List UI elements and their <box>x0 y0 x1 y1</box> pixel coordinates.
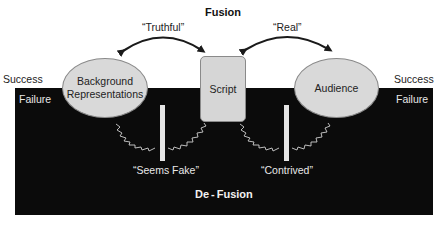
seems-fake-label: “Seems Fake” <box>133 165 199 176</box>
zigzag-right-a-icon <box>240 124 279 151</box>
background-line2: Representations <box>67 88 143 101</box>
zigzag-left-a-icon <box>116 124 155 151</box>
script-node: Script <box>200 56 246 122</box>
background-representations-node: Background Representations <box>62 58 148 118</box>
script-label: Script <box>210 83 237 95</box>
background-line1: Background <box>67 75 143 88</box>
contrived-label: “Contrived” <box>261 165 313 176</box>
truthful-arrow-icon <box>123 38 203 52</box>
real-arrow-icon <box>245 37 330 50</box>
truthful-label: “Truthful” <box>142 22 184 33</box>
left-barrier <box>160 105 165 161</box>
zigzag-right-b-icon <box>292 123 330 150</box>
real-label: “Real” <box>273 22 302 33</box>
audience-node: Audience <box>294 58 379 118</box>
audience-label: Audience <box>315 82 359 95</box>
zigzag-left-b-icon <box>168 123 206 150</box>
right-barrier <box>284 105 289 161</box>
